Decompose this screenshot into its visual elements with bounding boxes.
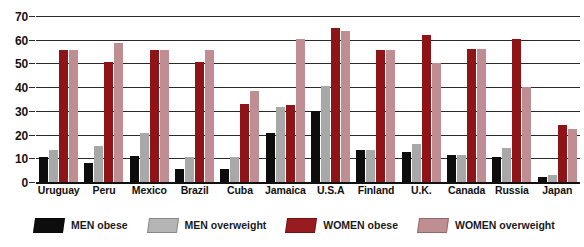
legend-label: MEN overweight: [185, 219, 267, 231]
bar: [94, 146, 103, 182]
bar-group: [217, 16, 262, 182]
bar: [240, 104, 249, 182]
bar: [140, 133, 149, 182]
legend-swatch: [33, 218, 65, 233]
y-tick-label: 10: [2, 152, 28, 166]
bar: [538, 177, 547, 182]
bar: [548, 175, 557, 182]
bar: [558, 125, 567, 182]
bar: [356, 150, 365, 182]
bar-group: [489, 16, 534, 182]
bar: [84, 163, 93, 182]
bar: [447, 155, 456, 182]
bar: [195, 62, 204, 182]
y-tick-mark: [29, 111, 35, 112]
y-tick-mark: [29, 182, 35, 183]
bar: [220, 169, 229, 182]
bar: [568, 129, 577, 182]
bar: [502, 148, 511, 182]
x-axis-label: Japan: [535, 184, 580, 200]
bar: [512, 39, 521, 182]
x-axis-label: Brazil: [172, 184, 217, 200]
y-tick-label: 30: [2, 105, 28, 119]
x-axis-label: U.S.A: [308, 184, 353, 200]
legend-label: MEN obese: [71, 219, 128, 231]
bar: [366, 150, 375, 182]
bar: [386, 50, 395, 182]
bar: [69, 50, 78, 182]
bar: [39, 157, 48, 182]
x-axis-label: Russia: [489, 184, 534, 200]
bar: [205, 50, 214, 182]
bar: [296, 39, 305, 182]
legend-swatch: [417, 218, 449, 233]
bar: [59, 50, 68, 182]
y-tick-label: 20: [2, 129, 28, 143]
y-tick-label: 0: [2, 176, 28, 190]
bar-group: [308, 16, 353, 182]
bar-group: [172, 16, 217, 182]
legend-item: WOMEN overweight: [418, 218, 555, 233]
y-tick-mark: [29, 87, 35, 88]
bar-group: [535, 16, 580, 182]
bar-group: [263, 16, 308, 182]
bar: [286, 105, 295, 182]
x-axis-labels: UruguayPeruMexicoBrazilCubaJamaicaU.S.AF…: [36, 184, 580, 200]
legend-swatch: [285, 218, 317, 233]
bar-group: [353, 16, 398, 182]
legend-label: WOMEN overweight: [455, 219, 555, 231]
bar: [402, 152, 411, 182]
chart-legend: MEN obeseMEN overweightWOMEN obeseWOMEN …: [34, 212, 554, 238]
bar: [331, 28, 340, 182]
bar: [230, 157, 239, 182]
bar: [49, 150, 58, 182]
bar: [341, 31, 350, 182]
bar-group: [399, 16, 444, 182]
bar: [422, 35, 431, 182]
y-tick-mark: [29, 63, 35, 64]
x-axis-label: U.K.: [399, 184, 444, 200]
bar: [321, 86, 330, 182]
bar: [311, 111, 320, 182]
bar-group: [127, 16, 172, 182]
bar: [467, 49, 476, 182]
bar-group: [444, 16, 489, 182]
x-axis-label: Jamaica: [263, 184, 308, 200]
legend-swatch: [147, 218, 179, 233]
legend-item: MEN overweight: [148, 218, 267, 233]
bar: [160, 50, 169, 182]
legend-item: MEN obese: [34, 218, 128, 233]
bar: [522, 87, 531, 182]
bar: [266, 133, 275, 182]
y-tick-label: 50: [2, 57, 28, 71]
bar: [114, 43, 123, 182]
bar-group: [81, 16, 126, 182]
bar: [457, 155, 466, 182]
y-tick-mark: [29, 16, 35, 17]
bar: [150, 50, 159, 182]
bar: [432, 63, 441, 182]
bar: [175, 169, 184, 182]
bar-group: [36, 16, 81, 182]
bar: [477, 49, 486, 182]
bar: [104, 62, 113, 182]
bar: [376, 50, 385, 182]
legend-item: WOMEN obese: [286, 218, 398, 233]
y-tick-mark: [29, 158, 35, 159]
bar: [492, 157, 501, 182]
bar: [276, 107, 285, 182]
x-axis-label: Uruguay: [36, 184, 81, 200]
bar: [412, 144, 421, 182]
y-tick-label: 70: [2, 10, 28, 24]
y-tick-mark: [29, 40, 35, 41]
legend-label: WOMEN obese: [323, 219, 398, 231]
bar: [250, 91, 259, 182]
bar: [185, 157, 194, 182]
y-tick-label: 60: [2, 34, 28, 48]
plot-area: 010203040506070: [36, 16, 580, 182]
y-tick-mark: [29, 135, 35, 136]
bar-chart: 010203040506070 UruguayPeruMexicoBrazilC…: [0, 0, 584, 247]
y-tick-label: 40: [2, 81, 28, 95]
x-axis-label: Peru: [81, 184, 126, 200]
bar-groups: [36, 16, 580, 182]
